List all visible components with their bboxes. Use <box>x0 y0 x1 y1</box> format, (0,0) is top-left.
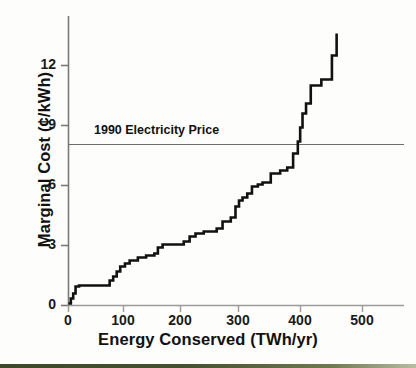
x-axis-title: Energy Conserved (TWh/yr) <box>0 330 416 349</box>
x-tick-label-300: 300 <box>216 312 260 328</box>
supply-curve-step-line <box>69 34 337 304</box>
x-tick-label-200: 200 <box>158 312 202 328</box>
bottom-accent-bar <box>0 364 416 368</box>
x-tick-label-100: 100 <box>101 312 145 328</box>
x-tick-label-500: 500 <box>340 312 384 328</box>
chart-figure: 12 9 6 3 0 0 100 200 300 400 500 1990 El… <box>0 0 416 368</box>
y-axis-title: Marginal Cost (¢/kWh) <box>35 20 54 300</box>
price-line-annotation-label: 1990 Electricity Price <box>94 123 219 137</box>
y-axis-ticks <box>61 66 68 306</box>
x-tick-label-0: 0 <box>46 312 90 328</box>
x-tick-label-400: 400 <box>278 312 322 328</box>
